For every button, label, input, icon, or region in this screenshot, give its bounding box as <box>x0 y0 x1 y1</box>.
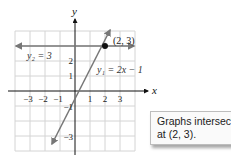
callout-line1: Graphs intersect <box>157 115 231 128</box>
svg-text:−3: −3 <box>63 132 73 142</box>
svg-text:−2: −2 <box>38 94 48 104</box>
line-y1 <box>52 30 110 144</box>
svg-text:2: 2 <box>103 94 108 104</box>
svg-text:3: 3 <box>118 94 123 104</box>
x-axis-label: x <box>151 84 157 96</box>
y-axis-label: y <box>71 5 77 17</box>
label-y2: y₂ = 3 <box>26 50 52 61</box>
intersection-point <box>102 43 108 49</box>
svg-text:−3: −3 <box>23 94 33 104</box>
callout-line2: at (2, 3). <box>157 128 231 141</box>
svg-text:−1: −1 <box>53 94 63 104</box>
svg-text:1: 1 <box>69 71 74 81</box>
svg-text:−1: −1 <box>63 102 73 112</box>
intersection-label: (2, 3) <box>113 35 135 47</box>
svg-text:2: 2 <box>69 56 74 66</box>
callout-box: Graphs intersect at (2, 3). <box>150 111 231 145</box>
y-tick-labels: 2 1 −1 −3 <box>63 56 73 142</box>
label-y1: y₁ = 2x − 1 <box>96 64 143 75</box>
svg-text:1: 1 <box>88 94 93 104</box>
